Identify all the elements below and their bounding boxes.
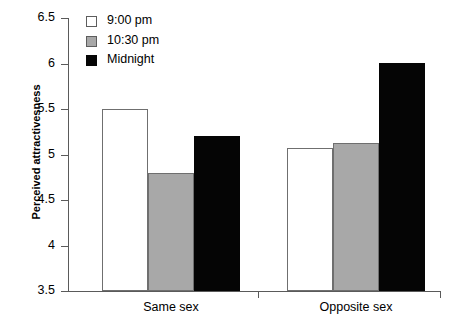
legend-swatch-icon-9pm xyxy=(86,16,97,27)
bar-opposite-sex-9-00-pm xyxy=(287,148,333,291)
x-axis-line xyxy=(68,291,441,292)
y-tick-6 xyxy=(61,64,68,65)
y-axis-line xyxy=(68,18,69,292)
y-tick-label-3.5: 3.5 xyxy=(0,284,55,296)
bar-same-sex-midnight xyxy=(194,136,240,291)
legend-swatch-icon-1030pm xyxy=(86,36,97,47)
bar-opposite-sex-10-30-pm xyxy=(333,143,379,291)
y-tick-6.5 xyxy=(61,18,68,19)
x-category-label-same-sex: Same sex xyxy=(101,300,241,314)
y-tick-4.5 xyxy=(61,200,68,201)
legend-label-9pm: 9:00 pm xyxy=(107,13,152,27)
x-category-label-opposite-sex: Opposite sex xyxy=(286,300,426,314)
y-tick-5 xyxy=(61,155,68,156)
legend-label-1030pm: 10:30 pm xyxy=(107,33,159,47)
y-tick-3.5 xyxy=(61,291,68,292)
bar-chart: Perceived attractivesness 6.565.554.543.… xyxy=(0,0,471,331)
bar-same-sex-10-30-pm xyxy=(148,173,194,291)
y-tick-label-4: 4 xyxy=(0,239,55,251)
y-tick-label-5: 5 xyxy=(0,148,55,160)
y-tick-label-6.5: 6.5 xyxy=(0,11,55,23)
y-tick-label-6: 6 xyxy=(0,57,55,69)
legend-label-midnight: Midnight xyxy=(107,52,154,66)
y-tick-label-5.5: 5.5 xyxy=(0,102,55,114)
y-tick-5.5 xyxy=(61,109,68,110)
x-axis-tick-center xyxy=(258,292,259,298)
legend-swatch-icon-midnight xyxy=(86,55,97,66)
bar-same-sex-9-00-pm xyxy=(102,109,148,291)
y-tick-label-4.5: 4.5 xyxy=(0,193,55,205)
x-axis-tick-right xyxy=(440,292,441,298)
bar-opposite-sex-midnight xyxy=(379,63,425,291)
y-tick-4 xyxy=(61,246,68,247)
